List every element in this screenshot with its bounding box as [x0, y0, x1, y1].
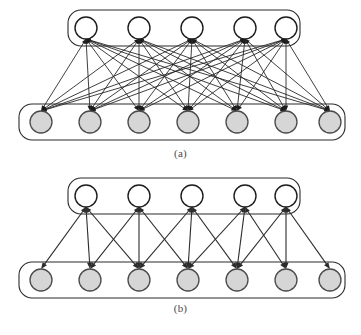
- panel-b: (b): [0, 170, 361, 335]
- bottom-node-b-5: [226, 269, 248, 291]
- panel-b-caption: (b): [0, 302, 361, 314]
- bottom-node-b-2: [79, 269, 101, 291]
- bottom-node-a-7: [319, 111, 341, 133]
- edge-1-3: [86, 39, 137, 109]
- bottom-node-a-1: [30, 111, 52, 133]
- network-diagram-a: [0, 0, 361, 145]
- edge-1-3: [86, 207, 137, 266]
- figure-root: (a) (b): [0, 0, 361, 335]
- network-diagram-b: [0, 170, 361, 300]
- edge-2-2: [92, 207, 139, 266]
- edge-5-5: [239, 207, 286, 266]
- arrowhead-5-7: [324, 262, 330, 269]
- edges-group-a: [41, 39, 330, 112]
- edge-4-5: [237, 207, 245, 265]
- bottom-node-a-5: [226, 111, 248, 133]
- edge-2-5: [139, 39, 235, 109]
- top-node-b-4: [234, 185, 256, 207]
- bottom-node-b-7: [319, 269, 341, 291]
- panel-a: (a): [0, 0, 361, 170]
- bottom-node-a-6: [275, 111, 297, 133]
- edge-5-7: [286, 39, 328, 108]
- edge-5-7: [286, 207, 328, 266]
- edge-2-7: [139, 39, 327, 110]
- bottom-layer-nodes-a: [30, 111, 341, 133]
- top-node-b-3: [181, 185, 203, 207]
- bottom-node-b-3: [128, 269, 150, 291]
- panel-a-caption: (a): [0, 147, 361, 159]
- top-layer-nodes-b: [75, 185, 297, 207]
- top-node-a-1: [75, 17, 97, 39]
- edge-4-1: [44, 39, 245, 110]
- arrowhead-1-1: [41, 262, 47, 269]
- top-node-a-2: [128, 17, 150, 39]
- top-node-b-1: [75, 185, 97, 207]
- edge-5-1: [44, 39, 286, 110]
- edge-3-4: [188, 207, 192, 265]
- bottom-node-a-3: [128, 111, 150, 133]
- top-layer-nodes-a: [75, 17, 297, 39]
- bottom-node-b-4: [177, 269, 199, 291]
- edge-4-6: [245, 207, 284, 266]
- bottom-node-b-1: [30, 269, 52, 291]
- edge-3-3: [141, 207, 192, 266]
- edges-group-b: [41, 207, 330, 269]
- edge-1-1: [43, 207, 86, 266]
- edge-1-2: [86, 207, 90, 265]
- bottom-node-b-6: [275, 269, 297, 291]
- top-node-a-3: [181, 17, 203, 39]
- bottom-node-a-4: [177, 111, 199, 133]
- bottom-node-a-2: [79, 111, 101, 133]
- top-node-b-2: [128, 185, 150, 207]
- bottom-layer-nodes-b: [30, 269, 341, 291]
- top-node-a-5: [275, 17, 297, 39]
- edge-1-1: [43, 39, 86, 108]
- top-node-a-4: [234, 17, 256, 39]
- top-node-b-5: [275, 185, 297, 207]
- edge-2-4: [139, 207, 186, 266]
